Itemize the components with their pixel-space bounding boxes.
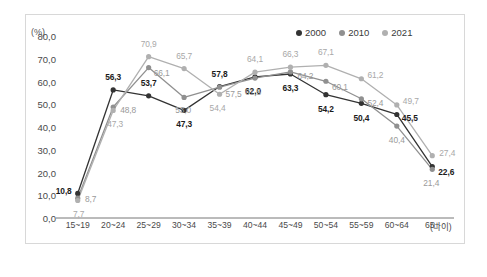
data-point-marker	[75, 191, 80, 196]
data-label: 66,3	[283, 49, 299, 59]
data-label: 47,3	[107, 119, 123, 129]
y-axis-tick: 50,0	[16, 99, 56, 110]
y-axis-tick: 40,0	[16, 122, 56, 133]
data-point-marker	[146, 93, 151, 98]
x-axis-tick: 55~59	[349, 220, 373, 230]
x-axis-tick: 60~64	[385, 220, 409, 230]
data-label: 70,9	[141, 39, 157, 49]
data-point-marker	[359, 96, 364, 101]
data-point-marker	[252, 75, 257, 80]
data-point-marker	[146, 54, 151, 59]
x-axis-tick-labels: 15~1920~2425~2930~3435~3940~4445~4950~54…	[60, 220, 450, 236]
data-point-marker	[323, 79, 328, 84]
y-axis-tick: 30,0	[16, 144, 56, 155]
x-axis-tick: 15~19	[66, 220, 90, 230]
data-point-marker	[217, 85, 222, 90]
x-axis-unit-label: (나이)	[430, 220, 452, 232]
data-label: 56,3	[105, 72, 121, 82]
data-point-marker	[359, 76, 364, 81]
data-label: 60,1	[332, 82, 348, 92]
data-point-marker	[430, 153, 435, 158]
data-label: 45,5	[402, 113, 418, 123]
data-label: 7,7	[73, 209, 84, 219]
data-label: 27,4	[439, 148, 455, 158]
data-point-marker	[394, 102, 399, 107]
data-label: 64,2	[298, 71, 314, 81]
data-point-marker	[288, 69, 293, 74]
data-point-marker	[288, 65, 293, 70]
data-label: 22,6	[438, 167, 454, 177]
chart-container: (%) 0,010,020,030,040,050,060,070,080,0 …	[0, 0, 487, 277]
data-label: 64,1	[247, 54, 263, 64]
data-label: 53,7	[141, 78, 157, 88]
data-label: 66,1	[154, 68, 170, 78]
data-point-marker	[217, 92, 222, 97]
data-point-marker	[323, 63, 328, 68]
y-axis-tick: 60,0	[16, 76, 56, 87]
x-axis-tick: 50~54	[314, 220, 338, 230]
data-point-marker	[146, 65, 151, 70]
data-label: 57,5	[226, 89, 242, 99]
y-axis-tick: 80,0	[16, 31, 56, 42]
data-label: 21,4	[423, 178, 439, 188]
data-label: 61,5	[245, 87, 261, 97]
legend-marker-icon	[296, 30, 302, 36]
x-axis-tick: 45~49	[278, 220, 302, 230]
data-point-marker	[359, 101, 364, 106]
data-point-marker	[394, 112, 399, 117]
data-point-marker	[181, 66, 186, 71]
data-label: 52,4	[367, 98, 383, 108]
data-point-marker	[394, 123, 399, 128]
legend-marker-icon	[382, 30, 388, 36]
data-label: 49,7	[403, 96, 419, 106]
legend-marker-icon	[339, 30, 345, 36]
data-point-marker	[111, 87, 116, 92]
x-axis-tick: 25~29	[137, 220, 161, 230]
data-label: 47,3	[176, 119, 192, 129]
data-label: 63,3	[283, 83, 299, 93]
data-point-marker	[181, 95, 186, 100]
x-axis-tick: 40~44	[243, 220, 267, 230]
data-label: 65,7	[176, 51, 192, 61]
data-point-marker	[111, 108, 116, 113]
y-axis-tick: 70,0	[16, 53, 56, 64]
data-label: 61,2	[367, 70, 383, 80]
y-axis-tick: 0,0	[16, 213, 56, 224]
data-label: 67,1	[318, 47, 334, 57]
data-label: 57,8	[212, 69, 228, 79]
data-label: 40,4	[389, 135, 405, 145]
x-axis-tick: 20~24	[101, 220, 125, 230]
data-point-marker	[430, 167, 435, 172]
plot-area: 10,856,353,747,357,862,063,354,250,445,5…	[60, 36, 450, 218]
data-point-marker	[323, 92, 328, 97]
data-label: 10,8	[56, 186, 72, 196]
data-label: 8,7	[85, 194, 96, 204]
y-axis-tick: 20,0	[16, 167, 56, 178]
data-label: 54,4	[210, 103, 226, 113]
data-label: 53,0	[175, 105, 191, 115]
data-point-marker	[75, 198, 80, 203]
y-axis-tick: 10,0	[16, 190, 56, 201]
x-axis-tick: 30~34	[172, 220, 196, 230]
y-axis-tick-labels: 0,010,020,030,040,050,060,070,080,0	[14, 36, 56, 218]
data-point-marker	[252, 70, 257, 75]
data-label: 54,2	[318, 104, 334, 114]
x-axis-tick: 35~39	[207, 220, 231, 230]
data-label: 50,4	[353, 113, 369, 123]
data-label: 48,8	[120, 105, 136, 115]
